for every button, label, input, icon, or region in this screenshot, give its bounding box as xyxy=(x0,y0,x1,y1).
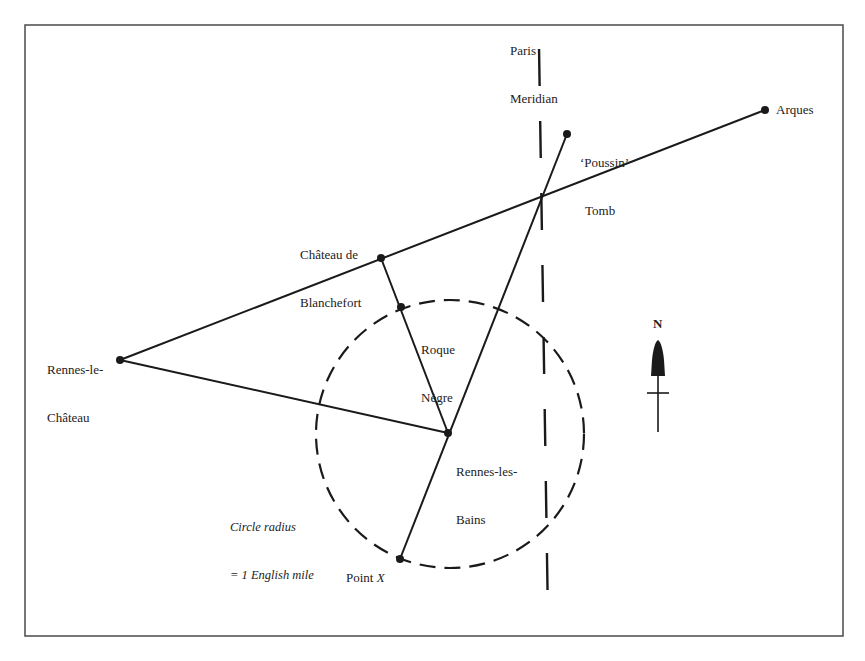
blanchefort-label-line2: Blanchefort xyxy=(300,295,361,311)
roque-negre-marker xyxy=(397,303,405,311)
north-arrow-icon xyxy=(647,340,669,432)
rennes-le-chateau-label: Rennes-le- Château xyxy=(47,330,103,458)
paris-meridian-label-line2: Meridian xyxy=(510,91,558,107)
circle-radius-annotation-line1: Circle radius xyxy=(230,519,314,535)
poussin-tomb-label: ‘Poussin’ Tomb xyxy=(580,123,629,251)
rennes-le-chateau-label-line1: Rennes-le- xyxy=(47,362,103,378)
rennes-les-bains-label: Rennes-les- Bains xyxy=(456,432,517,560)
roque-negre-label: Roque Nègre xyxy=(421,310,455,438)
blanchefort-marker xyxy=(377,254,385,262)
rennes-le-chateau-label-line2: Château xyxy=(47,410,103,426)
arques-label: Arques xyxy=(776,102,814,118)
roque-negre-label-line2: Nègre xyxy=(421,390,455,406)
point-x-label-prefix: Point xyxy=(346,570,377,585)
north-arrow-label: N xyxy=(653,316,662,332)
point-x-marker xyxy=(396,555,404,563)
point-x-label: Point X xyxy=(346,570,385,586)
roque-negre-label-line1: Roque xyxy=(421,342,455,358)
poussin-tomb-marker xyxy=(563,130,571,138)
line-rlc-rlb xyxy=(120,360,448,433)
rennes-le-chateau-marker xyxy=(116,356,124,364)
circle-radius-annotation-line2: = 1 English mile xyxy=(230,567,314,583)
circle-radius-annotation: Circle radius = 1 English mile xyxy=(230,487,314,615)
arques-marker xyxy=(761,106,769,114)
blanchefort-label-line1: Château de xyxy=(300,247,361,263)
rennes-les-bains-label-line1: Rennes-les- xyxy=(456,464,517,480)
blanchefort-label: Château de Blanchefort xyxy=(300,215,361,343)
poussin-tomb-label-line2: Tomb xyxy=(580,203,629,219)
map-diagram: Paris Meridian ‘Poussin’ Tomb Arques Châ… xyxy=(0,0,865,661)
paris-meridian-label: Paris Meridian xyxy=(510,11,558,139)
paris-meridian-label-line1: Paris xyxy=(510,43,558,59)
rennes-les-bains-label-line2: Bains xyxy=(456,512,517,528)
point-x-label-var: X xyxy=(377,570,385,585)
poussin-tomb-label-line1: ‘Poussin’ xyxy=(580,155,629,171)
